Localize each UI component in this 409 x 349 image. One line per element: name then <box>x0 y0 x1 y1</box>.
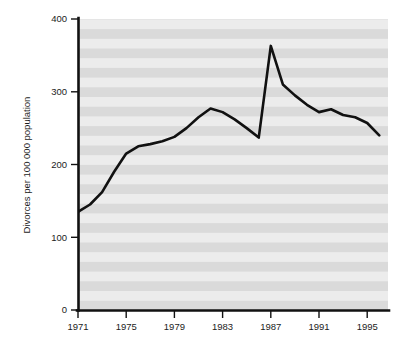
x-tick-label-1975: 1975 <box>116 321 137 332</box>
line-chart: 400 300 200 100 0 1971 1975 1979 1983 19… <box>0 0 409 349</box>
x-tick-label-1995: 1995 <box>357 321 378 332</box>
x-tick-label-1979: 1979 <box>164 321 185 332</box>
x-axis-ticks <box>78 311 367 318</box>
y-axis-tick-labels: 400 300 200 100 0 <box>51 13 67 315</box>
y-tick-label-100: 100 <box>51 232 67 243</box>
x-tick-label-1971: 1971 <box>67 321 88 332</box>
y-axis-title: Divorces per 100 000 population <box>21 97 32 234</box>
x-tick-label-1991: 1991 <box>308 321 329 332</box>
x-tick-label-1987: 1987 <box>260 321 281 332</box>
y-tick-label-300: 300 <box>51 86 67 97</box>
y-tick-label-0: 0 <box>62 304 67 315</box>
y-axis-ticks <box>71 19 78 310</box>
chart-figure: 400 300 200 100 0 1971 1975 1979 1983 19… <box>0 0 409 349</box>
x-tick-label-1983: 1983 <box>212 321 233 332</box>
y-tick-label-400: 400 <box>51 13 67 24</box>
x-axis-tick-labels: 1971 1975 1979 1983 1987 1991 1995 <box>67 321 377 332</box>
plot-background <box>78 19 388 310</box>
y-tick-label-200: 200 <box>51 159 67 170</box>
